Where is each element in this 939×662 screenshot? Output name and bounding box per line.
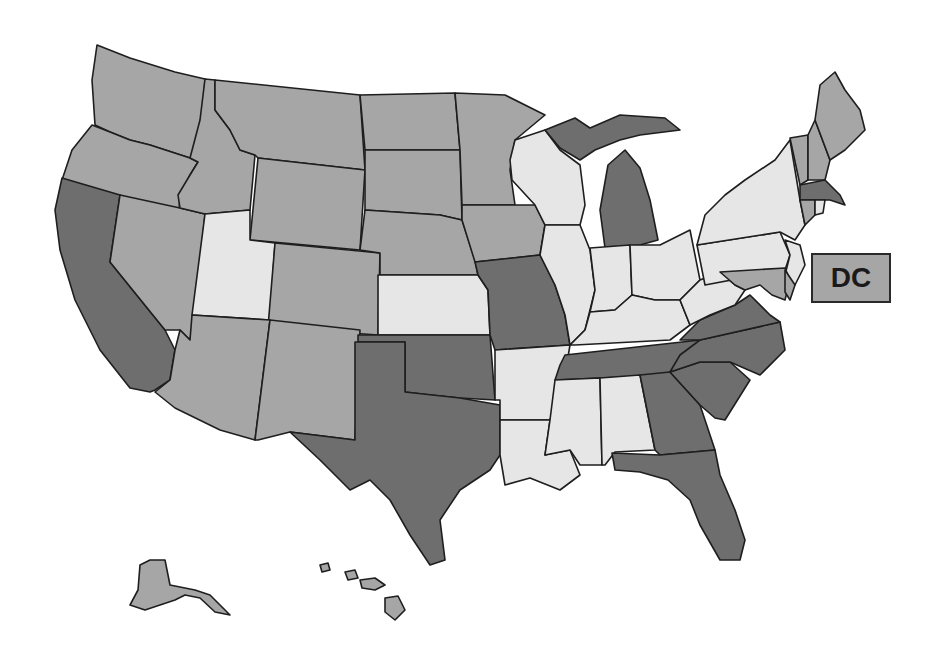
state-ny (697, 140, 805, 245)
state-mi (600, 150, 658, 248)
state-wy (250, 158, 365, 250)
state-ri (815, 200, 825, 215)
state-hi-2 (345, 570, 358, 580)
state-nd (360, 93, 460, 150)
state-ks (378, 275, 490, 335)
state-az (155, 315, 270, 440)
us-choropleth-map: DC (0, 0, 939, 662)
state-ia (462, 205, 545, 262)
dc-label-box: DC (811, 253, 891, 303)
state-hi-4 (385, 596, 405, 620)
state-hi-1 (320, 563, 330, 572)
state-hi-3 (360, 578, 385, 590)
state-ak (130, 560, 230, 615)
map-svg (0, 0, 939, 662)
state-fl (612, 450, 745, 560)
state-nm (255, 320, 360, 440)
state-sd (365, 150, 462, 220)
state-ms (545, 378, 602, 465)
